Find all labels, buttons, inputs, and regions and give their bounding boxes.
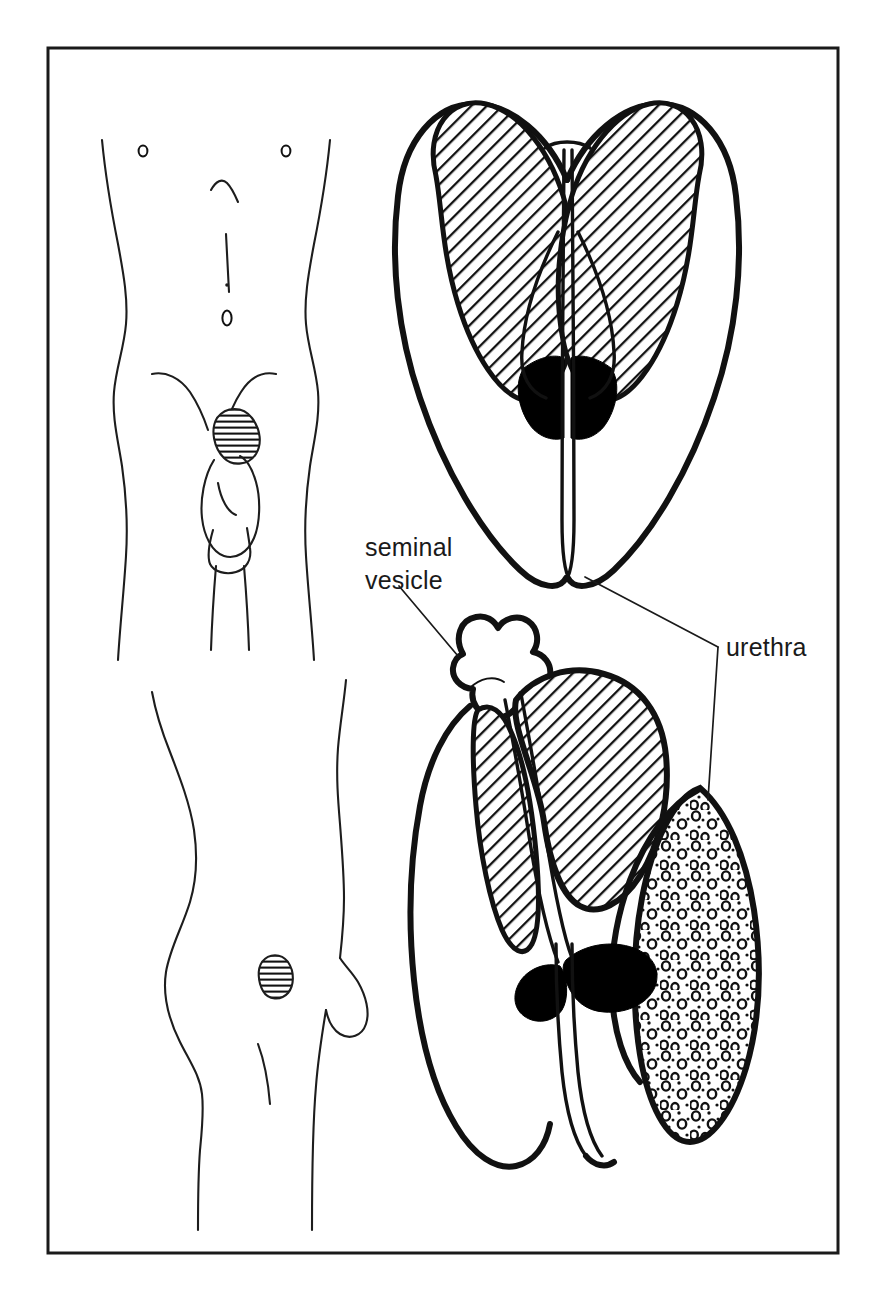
seminal-vesicle-label-line1: seminal [365, 533, 453, 561]
thigh-front-contour [312, 1010, 326, 1230]
urethra-leader-line-lower [708, 647, 718, 800]
panel-lateral-organ [411, 617, 759, 1167]
sternum-arch [211, 181, 238, 202]
thigh-left-inner [211, 566, 216, 650]
linea-alba-dot [225, 283, 229, 287]
nipple-right-icon [282, 146, 291, 157]
panel-anterior-body [102, 140, 330, 660]
panel-anterior-organ [395, 103, 739, 586]
anatomy-figure: seminal vesicle urethra [0, 0, 884, 1294]
front-contour-lower [326, 958, 368, 1037]
panel-lateral-body [152, 680, 368, 1230]
scrotum-raphe [218, 483, 236, 515]
front-contour [337, 680, 346, 958]
urethra-leader-line-upper [585, 577, 718, 647]
torso-left-contour [102, 140, 127, 660]
nipple-left-icon [139, 146, 148, 157]
lateral-prostate-marker [259, 955, 293, 998]
anterior-prostate-marker [213, 409, 259, 464]
thigh-right-inner [244, 566, 249, 650]
back-contour [152, 692, 203, 1230]
navel-icon [222, 311, 231, 326]
seminal-vesicle-leader-line [399, 586, 458, 656]
lateral-urethra-outlet [586, 1156, 614, 1165]
thigh-back-contour [258, 1044, 270, 1104]
urethra-label: urethra [726, 633, 807, 661]
seminal-vesicle-label-line2: vesicle [365, 566, 443, 594]
lateral-seminal-vesicle-crease [470, 678, 504, 688]
torso-right-contour [305, 140, 330, 660]
lateral-prostate-posterior [563, 944, 657, 1012]
groin-crease-left [152, 373, 208, 430]
anatomy-figure-canvas: seminal vesicle urethra [0, 0, 884, 1294]
